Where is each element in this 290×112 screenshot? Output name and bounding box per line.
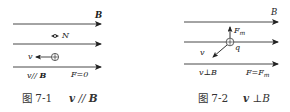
fig2-velocity-vector (213, 45, 227, 57)
fig1-force-label: F=0 (71, 71, 88, 79)
fig1-positive-charge-icon (51, 53, 58, 60)
fig2-condition-label: v⊥B (199, 69, 217, 77)
fig2-force-label: F=Fm (246, 69, 270, 78)
force-sub: m (264, 71, 270, 78)
caption-b: B (262, 92, 270, 104)
cond-b: B (39, 70, 46, 80)
fig2-velocity-label: v (200, 49, 205, 57)
fig1-velocity-label: v (28, 53, 33, 61)
fig2-positive-charge-icon (226, 38, 234, 46)
caption-rel: ⊥ (252, 92, 262, 104)
fig2-charge-label: q (235, 44, 240, 52)
fig1-condition-label: v// B (27, 71, 46, 80)
fig2-force-vector-label: Fm (234, 27, 245, 36)
caption-v: v (69, 92, 75, 104)
force-main: F=F (246, 68, 264, 77)
fig1-caption: 图 7-1 v // B (22, 93, 98, 104)
cond-rel: ⊥ (204, 68, 212, 77)
compass-needle-icon (51, 34, 59, 38)
caption-number: 图 7-2 (198, 92, 228, 104)
fig1-field-lines (13, 24, 101, 67)
fig1-neutral-label: N (62, 32, 69, 40)
fig2-caption: 图 7-2 v ⊥B (198, 93, 270, 104)
caption-v: v (243, 92, 249, 104)
fig1-field-label: B (95, 11, 102, 20)
caption-number: 图 7-1 (22, 92, 52, 104)
force-sub: m (240, 29, 246, 36)
caption-rel: // (78, 92, 85, 104)
cond-b: B (211, 68, 217, 77)
fig2-field-label: B (271, 8, 277, 17)
cond-rel: // (32, 71, 37, 80)
caption-b: B (89, 92, 98, 104)
